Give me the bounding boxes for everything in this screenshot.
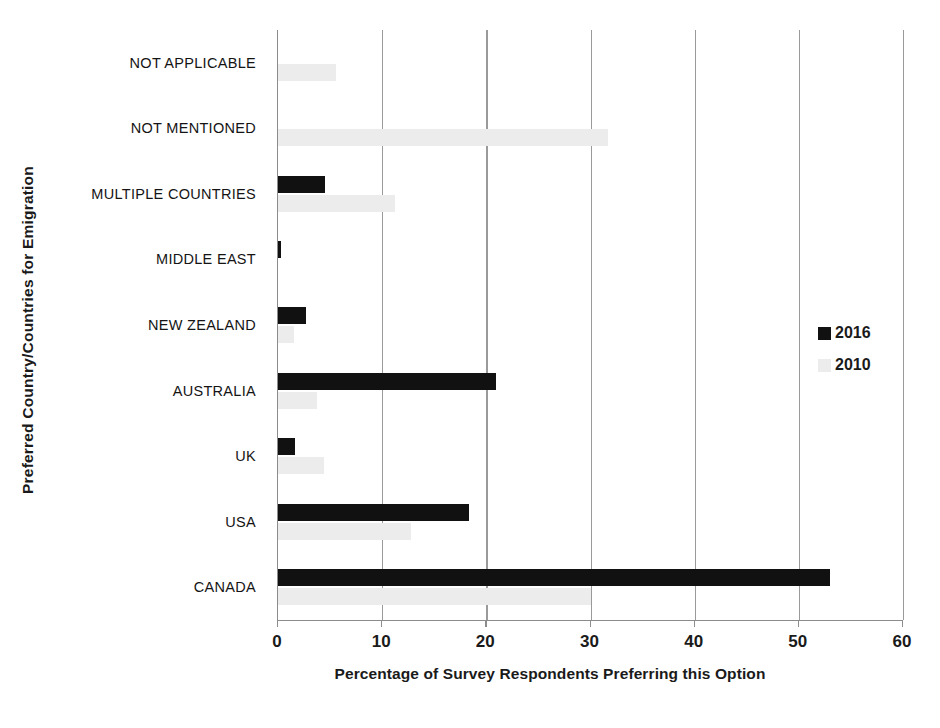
x-tick-label-0: 0: [247, 632, 307, 652]
bar-row: [278, 358, 903, 424]
x-tick-40: [694, 620, 695, 627]
bar-2010: [278, 64, 336, 81]
x-tick-label-20: 20: [455, 632, 515, 652]
bar-row: [278, 489, 903, 555]
bar-2016: [278, 176, 325, 193]
category-label-new-zealand: NEW ZEALAND: [56, 292, 268, 358]
x-tick-label-50: 50: [768, 632, 828, 652]
x-tick-label-60: 60: [872, 632, 932, 652]
x-tick-label-40: 40: [664, 632, 724, 652]
bar-row: [278, 292, 903, 358]
x-tick-60: [902, 620, 903, 627]
category-label-not-mentioned: NOT MENTIONED: [56, 96, 268, 162]
bar-row: [278, 161, 903, 227]
bar-chart: Preferred Country/Countries for Emigrati…: [0, 0, 940, 728]
y-axis-title: Preferred Country/Countries for Emigrati…: [0, 0, 56, 660]
bar-gap: [278, 258, 903, 260]
x-tick-30: [590, 620, 591, 627]
x-tick-10: [381, 620, 382, 627]
x-tick-label-10: 10: [351, 632, 411, 652]
bar-2010: [278, 129, 608, 146]
bar-2016: [278, 307, 306, 324]
category-label-multiple-countries: MULTIPLE COUNTRIES: [56, 161, 268, 227]
bar-2010: [278, 457, 324, 474]
y-axis-title-text: Preferred Country/Countries for Emigrati…: [19, 166, 37, 494]
bar-row: [278, 555, 903, 621]
bar-2016: [278, 373, 496, 390]
category-label-middle-east: MIDDLE EAST: [56, 227, 268, 293]
bar-2016: [278, 241, 281, 258]
category-label-uk: UK: [56, 423, 268, 489]
bar-gap: [278, 390, 903, 392]
bar-2016: [278, 504, 469, 521]
bar-gap: [278, 455, 903, 457]
plot-area: [277, 30, 903, 620]
bar-row: [278, 96, 903, 162]
x-axis-title: Percentage of Survey Respondents Preferr…: [200, 665, 900, 683]
x-tick-50: [798, 620, 799, 627]
category-label-australia: AUSTRALIA: [56, 358, 268, 424]
category-label-canada: CANADA: [56, 555, 268, 621]
bar-gap: [278, 324, 903, 326]
bar-gap: [278, 62, 903, 64]
bar-2010: [278, 523, 411, 540]
gridline-60: [903, 30, 904, 620]
bar-2016: [278, 569, 830, 586]
x-tick-20: [485, 620, 486, 627]
bar-2010: [278, 326, 294, 343]
category-label-not-applicable: NOT APPLICABLE: [56, 30, 268, 96]
bar-2016: [278, 438, 295, 455]
bar-row: [278, 227, 903, 293]
category-label-usa: USA: [56, 489, 268, 555]
bar-2010: [278, 195, 395, 212]
x-tick-label-30: 30: [560, 632, 620, 652]
bar-row: [278, 30, 903, 96]
bar-2010: [278, 588, 591, 605]
bar-row: [278, 423, 903, 489]
x-tick-0: [277, 620, 278, 627]
bar-2010: [278, 392, 317, 409]
y-axis-category-labels: NOT APPLICABLE NOT MENTIONED MULTIPLE CO…: [56, 30, 268, 620]
bar-rows: [278, 30, 903, 620]
